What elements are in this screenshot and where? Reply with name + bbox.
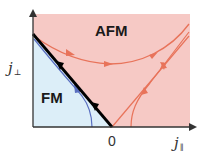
x-axis-label: j∥ bbox=[174, 134, 182, 152]
y-axis-subscript: ⊥ bbox=[14, 68, 22, 77]
origin-label: 0 bbox=[108, 133, 116, 149]
y-axis-symbol: j bbox=[8, 59, 13, 77]
x-axis-symbol: j bbox=[174, 134, 179, 152]
x-axis-subscript: ∥ bbox=[180, 143, 184, 152]
afm-label: AFM bbox=[95, 22, 128, 39]
y-axis-label: j⊥ bbox=[8, 59, 20, 77]
fm-label: FM bbox=[41, 89, 63, 106]
